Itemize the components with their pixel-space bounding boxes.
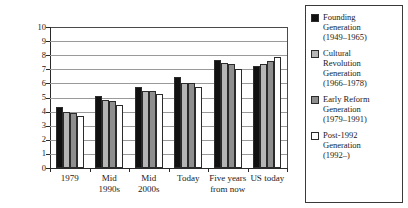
bar: [63, 112, 70, 168]
legend-label: Founding Generation (1949–1965): [323, 12, 367, 42]
bar-group: [95, 27, 123, 168]
bar: [235, 69, 242, 168]
x-axis-tick: [90, 168, 91, 172]
chart-legend: Founding Generation (1949–1965)Cultural …: [305, 5, 403, 203]
bar: [77, 116, 84, 168]
bar: [181, 83, 188, 168]
y-axis-tick: [46, 41, 50, 42]
y-axis-tick-label: 9: [26, 37, 46, 46]
y-axis-tick-label: 10: [26, 23, 46, 32]
y-axis-tick: [46, 55, 50, 56]
y-axis-tick: [46, 98, 50, 99]
legend-item: Post-1992 Generation (1992–): [311, 130, 398, 160]
bar: [260, 64, 267, 168]
legend-swatch-post-1992: [311, 132, 319, 140]
legend-item: Founding Generation (1949–1965): [311, 12, 398, 42]
bar: [95, 96, 102, 168]
gridline: [50, 83, 287, 84]
y-axis-tick: [46, 112, 50, 113]
y-axis-tick-label: 7: [26, 65, 46, 74]
gridline: [50, 154, 287, 155]
bar: [149, 91, 156, 168]
bar: [274, 57, 281, 168]
gridline: [50, 126, 287, 127]
y-axis-tick-label: 6: [26, 79, 46, 88]
x-axis-tick: [287, 168, 288, 172]
bar-group: [174, 27, 202, 168]
x-axis-tick: [248, 168, 249, 172]
y-axis-tick: [46, 140, 50, 141]
x-axis-tick: [208, 168, 209, 172]
bar-group: [253, 27, 281, 168]
bar-group: [135, 27, 163, 168]
y-axis-tick-label: 2: [26, 135, 46, 144]
gridline: [50, 69, 287, 70]
gridline: [50, 112, 287, 113]
bar: [188, 83, 195, 168]
y-axis-tick-label: 3: [26, 121, 46, 130]
legend-label: Cultural Revolution Generation (1966–197…: [323, 48, 367, 88]
bar: [142, 91, 149, 168]
gridline: [50, 55, 287, 56]
bar: [221, 63, 228, 168]
bar: [214, 60, 221, 168]
x-axis-label: Today: [169, 173, 209, 184]
x-axis-label: Five years from now: [208, 173, 248, 194]
bar: [56, 107, 63, 168]
legend-swatch-founding: [311, 14, 319, 22]
legend-label: Early Reform Generation (1979–1991): [323, 94, 370, 124]
bar: [116, 105, 123, 168]
y-axis-tick: [46, 126, 50, 127]
y-axis-tick: [46, 83, 50, 84]
y-axis-tick: [46, 27, 50, 28]
plot-frame-right: [287, 27, 288, 169]
bar: [156, 94, 163, 168]
bar-group: [214, 27, 242, 168]
bar: [109, 101, 116, 168]
x-axis-tick: [129, 168, 130, 172]
y-axis-tick-label: 0: [26, 164, 46, 173]
legend-label: Post-1992 Generation (1992–): [323, 130, 361, 160]
bar: [135, 87, 142, 168]
y-axis-tick-label: 4: [26, 107, 46, 116]
legend-swatch-early-reform: [311, 96, 319, 104]
y-axis-tick-label: 1: [26, 149, 46, 158]
gridline: [50, 140, 287, 141]
bar: [228, 64, 235, 168]
x-axis-label: US today: [248, 173, 288, 184]
y-axis-tick-label: 8: [26, 51, 46, 60]
bar-group: [56, 27, 84, 168]
gridline: [50, 41, 287, 42]
bar: [174, 77, 181, 168]
bar: [267, 61, 274, 168]
bar: [102, 100, 109, 168]
x-axis-label: Mid 1990s: [90, 173, 130, 194]
legend-item: Cultural Revolution Generation (1966–197…: [311, 48, 398, 88]
plot-area: 012345678910 1979Mid 1990sMid 2000sToday…: [50, 27, 287, 168]
plot-frame-top: [50, 27, 287, 28]
bar: [253, 66, 260, 168]
gridline: [50, 98, 287, 99]
legend-item: Early Reform Generation (1979–1991): [311, 94, 398, 124]
x-axis-tick: [50, 168, 51, 172]
y-axis-tick: [46, 154, 50, 155]
legend-swatch-cultural-revolution: [311, 50, 319, 58]
y-axis-tick-label: 5: [26, 93, 46, 102]
x-axis-label: 1979: [50, 173, 90, 184]
bar: [70, 113, 77, 168]
x-axis-label: Mid 2000s: [129, 173, 169, 194]
x-axis-tick: [169, 168, 170, 172]
y-axis-tick: [46, 69, 50, 70]
chart-figure: Level of Democracy 012345678910 1979Mid …: [0, 0, 408, 208]
bar: [195, 87, 202, 168]
